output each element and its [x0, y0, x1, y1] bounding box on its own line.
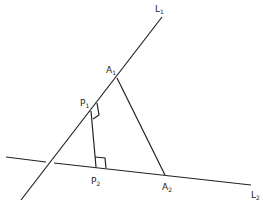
- line-l2-left-segment: [6, 157, 46, 162]
- label-p2: P2: [91, 176, 100, 187]
- segment-p1-p2: [91, 111, 96, 167]
- line-l2: [54, 163, 251, 185]
- label-a2: A2: [162, 182, 172, 193]
- label-l1: L1: [155, 4, 164, 15]
- label-p1: P1: [80, 98, 89, 109]
- right-angle-marker-p2: [95, 157, 106, 168]
- label-l2: L2: [251, 190, 260, 201]
- segment-a1-a2: [117, 78, 165, 175]
- label-a1: A1: [106, 65, 116, 76]
- geometry-diagram: L1 A1 P1 P2 A2 L2: [0, 0, 263, 207]
